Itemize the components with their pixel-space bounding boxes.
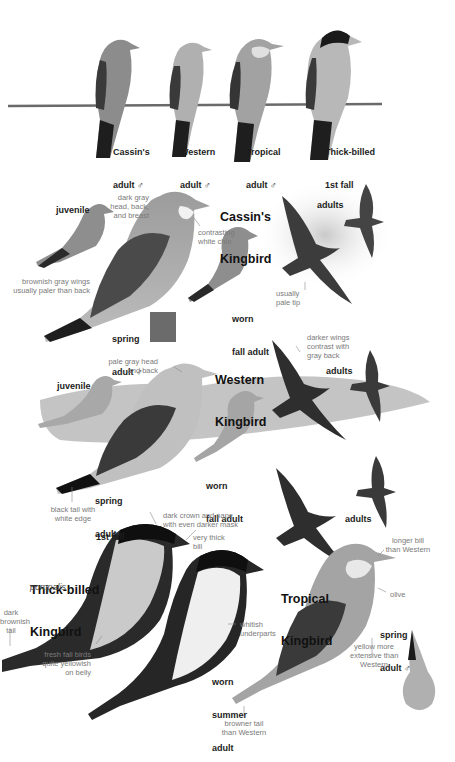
wire-label-western-name: Western [180, 147, 215, 158]
wire-label-thick-billed: Thick-billed 1st fall [325, 125, 375, 202]
tropical-title-line1: Tropical [281, 592, 332, 606]
thick-billed-label-worn-summer-line1: worn [212, 677, 247, 688]
cassins-post [150, 312, 176, 342]
western-note-tail: black tail with white edge [44, 505, 102, 523]
thick-billed-subspecies: pompalis [30, 582, 66, 592]
wire-label-cassins-name: Cassin's [113, 147, 150, 158]
cassins-label-worn-fall-line1: worn [232, 314, 269, 325]
wire-label-western: Western adult ♂ [180, 125, 215, 202]
tropical-note-tail: browner tail than Western [218, 719, 270, 737]
cassins-label-spring-adult-line1: spring [112, 334, 143, 345]
wire-label-thick-billed-name: Thick-billed [325, 147, 375, 158]
wire-label-cassins-age: adult ♂ [113, 180, 150, 191]
thick-billed-label-worn-summer: worn summer adult [212, 655, 247, 762]
cassins-note-wings: brownish gray wings usually paler than b… [10, 277, 90, 295]
wire-label-western-age: adult ♂ [180, 180, 215, 191]
thick-billed-label-worn-summer-line3: adult [212, 743, 247, 754]
western-label-juvenile: juvenile [57, 381, 91, 392]
cassins-label-adults: adults [317, 200, 344, 211]
western-note-wings: darker wings contrast with gray back [307, 333, 350, 360]
tropical-note-bill: longer bill than Western [384, 536, 432, 554]
western-title-line2: Kingbird [215, 415, 266, 429]
cassins-note-head: dark gray head, back, and breast [100, 193, 149, 220]
thick-billed-note-bill: very thick bill [193, 533, 225, 551]
tropical-label-adults: adults [345, 514, 372, 525]
thick-billed-note-underparts: whitish underparts [240, 620, 276, 638]
western-label-adults: adults [326, 366, 353, 377]
wire-label-thick-billed-age: 1st fall [325, 180, 375, 191]
tropical-title-line2: Kingbird [281, 634, 332, 648]
tropical-note-yellow: yellow more extensive than Western [350, 642, 398, 669]
western-label-worn-fall-line1: worn [206, 481, 243, 492]
western-title-line1: Western [215, 373, 266, 387]
cassins-title-line1: Cassin's [220, 210, 271, 224]
wire-label-tropical-name: Tropical [246, 147, 281, 158]
thick-billed-title: Thick-billed Kingbird [30, 555, 99, 653]
thick-billed-label-first-fall: 1st fall [96, 532, 125, 543]
thick-billed-note-belly: fresh fall birds quite yellowish on bell… [38, 650, 91, 677]
western-note-head: pale gray head and back [100, 357, 158, 375]
thick-billed-title-line2: Kingbird [30, 625, 99, 639]
tropical-title: Tropical Kingbird [281, 564, 332, 662]
cassins-label-spring-adult: spring adult ♂ [112, 312, 143, 389]
thick-billed-note-crown: dark crown and nape with even darker mas… [163, 511, 238, 529]
wire-label-cassins: Cassin's adult ♂ [113, 125, 150, 202]
cassins-label-juvenile: juvenile [56, 205, 90, 216]
tropical-label-spring-adult-line1: spring [380, 630, 411, 641]
cassins-title-line2: Kingbird [220, 252, 271, 266]
tropical-note-olive: olive [390, 590, 405, 599]
thick-billed-note-tail: dark brownish tail [0, 608, 22, 635]
cassins-note-chin: contrasting white chin [198, 228, 235, 246]
cassins-note-tip: usually pale tip [276, 289, 300, 307]
western-title: Western Kingbird [215, 345, 266, 443]
